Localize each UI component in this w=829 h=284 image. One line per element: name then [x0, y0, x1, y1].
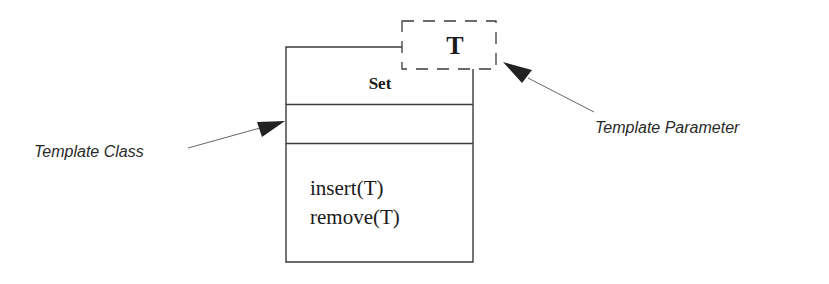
template-parameter-arrowhead-icon: [503, 62, 532, 83]
class-name: Set: [369, 74, 392, 93]
template-class-leader-line: [188, 128, 260, 148]
template-class-label: Template Class: [34, 143, 144, 160]
template-parameter-annotation-label: Template Parameter: [595, 119, 740, 136]
template-parameter-annotation: Template Parameter: [503, 62, 740, 136]
template-class-arrowhead-icon: [257, 121, 285, 137]
operation-insert: insert(T): [310, 176, 383, 200]
diagram-canvas: Set insert(T) remove(T) T Template Class…: [0, 0, 829, 284]
template-parameter-label: T: [446, 31, 463, 60]
operation-remove: remove(T): [310, 205, 400, 229]
template-parameter-leader-line: [528, 78, 594, 112]
template-parameter-box: T: [402, 21, 496, 69]
template-class-annotation: Template Class: [34, 121, 285, 160]
diagram-svg: Set insert(T) remove(T) T Template Class…: [0, 0, 829, 284]
class-box: Set insert(T) remove(T): [286, 47, 473, 262]
